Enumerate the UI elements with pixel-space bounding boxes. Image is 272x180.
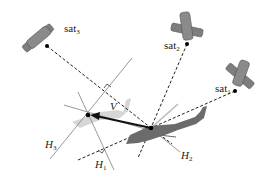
signal-lines — [47, 44, 235, 160]
line-h3 — [50, 58, 132, 159]
satellite-2-icon — [171, 11, 204, 40]
label-sat2: sat2 — [164, 40, 180, 53]
label-v: V — [110, 101, 117, 112]
label-h3: H3 — [45, 139, 56, 152]
satellite-positioning-diagram — [0, 0, 272, 180]
point-helicopter — [149, 126, 154, 131]
satellite-3-icon — [18, 22, 57, 53]
ghost-helicopter — [72, 98, 131, 128]
label-h2: H2 — [181, 150, 192, 163]
point-previous-position — [86, 113, 91, 118]
label-sat3: sat3 — [64, 23, 80, 36]
label-sat1: sat1 — [215, 83, 231, 96]
label-h1: H1 — [95, 159, 106, 172]
